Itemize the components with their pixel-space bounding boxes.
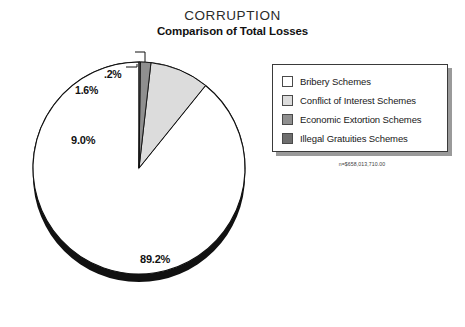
- legend-label-bribery: Bribery Schemes: [300, 76, 371, 87]
- legend-item-bribery: Bribery Schemes: [282, 72, 447, 91]
- legend-label-extortion: Economic Extortion Schemes: [300, 114, 421, 125]
- legend-swatch-icon-bribery: [282, 76, 293, 87]
- sample-size-caption: n=$658,013,710.00: [272, 161, 452, 167]
- legend-label-gratuity: Illegal Gratuities Schemes: [300, 133, 408, 144]
- page-subtitle: Comparison of Total Losses: [0, 24, 465, 38]
- legend: Bribery Schemes Conflict of Interest Sch…: [272, 64, 448, 152]
- legend-item-conflict: Conflict of Interest Schemes: [282, 91, 447, 110]
- legend-item-extortion: Economic Extortion Schemes: [282, 110, 447, 129]
- legend-label-conflict: Conflict of Interest Schemes: [300, 95, 416, 106]
- pie-label-conflict: 9.0%: [71, 134, 95, 146]
- pie-chart-svg: [18, 46, 268, 306]
- legend-swatch-icon-gratuity: [282, 133, 293, 144]
- legend-item-gratuity: Illegal Gratuities Schemes: [282, 129, 447, 148]
- pie-label-gratuity: .2%: [104, 68, 122, 80]
- pie-label-bribery: 89.2%: [140, 253, 170, 265]
- title-block: CORRUPTION Comparison of Total Losses: [0, 8, 465, 38]
- page-title: CORRUPTION: [0, 8, 465, 23]
- pie-label-extortion: 1.6%: [75, 84, 98, 96]
- legend-box: Bribery Schemes Conflict of Interest Sch…: [272, 64, 448, 152]
- pie-chart: 89.2% 9.0% 1.6% .2%: [18, 46, 268, 306]
- legend-swatch-icon-conflict: [282, 95, 293, 106]
- legend-swatch-icon-extortion: [282, 114, 293, 125]
- leader-line-gratuity: [135, 52, 145, 62]
